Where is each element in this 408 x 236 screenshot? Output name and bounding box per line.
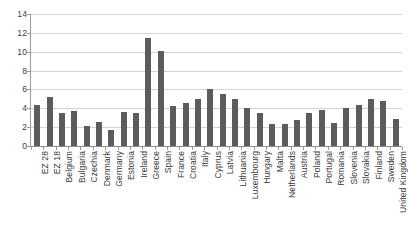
bar: [368, 99, 374, 146]
x-tick-mark: [353, 147, 354, 150]
x-tick-mark: [291, 147, 292, 150]
x-tick-mark: [204, 147, 205, 150]
bar: [133, 113, 139, 146]
x-tick-mark: [130, 147, 131, 150]
y-tick-mark: [27, 52, 30, 53]
x-tick-label: EZ 18: [53, 151, 62, 174]
bar: [158, 51, 164, 146]
bar: [121, 112, 127, 146]
x-tick-mark: [402, 147, 403, 150]
y-tick-mark: [27, 127, 30, 128]
x-tick-mark: [31, 147, 32, 150]
x-tick-label: Austria: [300, 151, 309, 178]
x-tick-label: Denmark: [103, 151, 112, 186]
bar: [96, 122, 102, 146]
bar: [47, 97, 53, 146]
x-tick-label: Slovenia: [350, 151, 359, 184]
plot-area: [31, 14, 402, 146]
x-tick-mark: [155, 147, 156, 150]
x-tick-label: Lithuania: [239, 151, 248, 186]
y-tick-mark: [27, 89, 30, 90]
x-tick-label: Germany: [115, 151, 124, 187]
bar: [244, 108, 250, 146]
x-tick-label: Greece: [152, 151, 161, 179]
y-tick-mark: [27, 108, 30, 109]
bar: [34, 105, 40, 146]
bar: [269, 124, 275, 146]
bar: [343, 108, 349, 146]
bar: [59, 113, 65, 146]
x-tick-label: Spain: [164, 151, 173, 173]
x-tick-label: Netherlands: [288, 151, 297, 198]
y-tick-mark: [27, 146, 30, 147]
bar: [380, 101, 386, 146]
bar: [294, 120, 300, 146]
y-tick-label: 2: [2, 123, 27, 132]
x-tick-label: Poland: [313, 151, 322, 178]
x-tick-mark: [93, 147, 94, 150]
x-axis: EZ 28EZ 18BelgiumBulgariaCzechiaDenmarkG…: [31, 151, 402, 235]
x-tick-mark: [192, 147, 193, 150]
x-tick-label: Ireland: [140, 151, 149, 178]
x-tick-label: Hungary: [263, 151, 272, 184]
x-tick-mark: [365, 147, 366, 150]
bar: [207, 89, 213, 146]
y-tick-label: 14: [2, 10, 27, 19]
bar: [108, 130, 114, 146]
x-tick-label: Croatia: [189, 151, 198, 179]
bar: [257, 113, 263, 146]
x-tick-mark: [328, 147, 329, 150]
x-tick-label: France: [177, 151, 186, 178]
bar: [195, 99, 201, 146]
x-axis-ticks: [31, 147, 402, 150]
x-tick-mark: [56, 147, 57, 150]
bar: [71, 111, 77, 146]
bar: [356, 105, 362, 146]
x-tick-label: Belgium: [65, 151, 74, 182]
x-tick-mark: [217, 147, 218, 150]
y-tick-label: 10: [2, 47, 27, 56]
x-tick-label: Bulgaria: [78, 151, 87, 183]
x-tick-mark: [105, 147, 106, 150]
x-tick-label: Malta: [276, 151, 285, 172]
y-tick-label: 12: [2, 29, 27, 38]
bar: [319, 110, 325, 146]
x-tick-mark: [390, 147, 391, 150]
x-tick-label: EZ 28: [41, 151, 50, 174]
y-tick-mark: [27, 14, 30, 15]
x-tick-mark: [118, 147, 119, 150]
x-tick-mark: [241, 147, 242, 150]
y-tick-label: 0: [2, 142, 27, 151]
x-tick-label: Cyprus: [214, 151, 223, 179]
x-tick-mark: [229, 147, 230, 150]
bar: [331, 123, 337, 146]
x-tick-mark: [80, 147, 81, 150]
x-tick-label: Italy: [201, 151, 210, 167]
bar-series: [31, 14, 402, 146]
y-tick-mark: [27, 71, 30, 72]
x-tick-mark: [278, 147, 279, 150]
x-tick-label: Slovakia: [362, 151, 371, 184]
x-tick-label: Portugal: [325, 151, 334, 183]
x-tick-label: Luxembourg: [251, 151, 260, 199]
x-tick-mark: [377, 147, 378, 150]
y-tick-label: 6: [2, 85, 27, 94]
bar: [84, 126, 90, 146]
y-axis: 02468101214: [0, 0, 27, 160]
x-tick-label: Czechia: [90, 151, 99, 182]
x-tick-label: United Kingdom: [399, 151, 408, 213]
bar: [145, 38, 151, 146]
bar: [170, 106, 176, 146]
y-tick-label: 8: [2, 66, 27, 75]
x-tick-label: Romania: [337, 151, 346, 186]
x-tick-label: Estonia: [127, 151, 136, 180]
x-tick-mark: [167, 147, 168, 150]
bar: [183, 103, 189, 146]
x-tick-mark: [266, 147, 267, 150]
bar: [393, 119, 399, 146]
x-tick-mark: [179, 147, 180, 150]
x-tick-mark: [254, 147, 255, 150]
x-tick-mark: [43, 147, 44, 150]
bar: [232, 99, 238, 146]
